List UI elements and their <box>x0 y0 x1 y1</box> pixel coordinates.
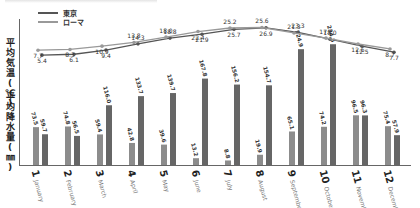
bar-value-label: 156.2 <box>230 65 240 84</box>
bar <box>74 136 80 165</box>
bar-value-label: 74.8 <box>62 110 71 125</box>
bar <box>33 127 39 165</box>
bar-value-label: 154.7 <box>262 66 272 85</box>
month-name: June <box>193 179 203 193</box>
temperature-value-label: 25.6 <box>255 17 269 24</box>
month-number: 6 <box>190 169 202 179</box>
data-point <box>292 31 296 35</box>
bar <box>106 105 112 165</box>
bar <box>193 158 199 165</box>
bar <box>394 135 400 165</box>
month-name: December <box>387 186 402 208</box>
month-name: March <box>97 179 108 198</box>
data-point <box>260 26 264 30</box>
bar-value-label: 39.6 <box>158 129 167 144</box>
bar <box>257 155 263 165</box>
bar <box>385 126 391 165</box>
temperature-value-label: 17.2 <box>319 28 333 35</box>
bar-value-label: 73.5 <box>30 111 39 126</box>
bar <box>65 126 71 165</box>
bar <box>266 85 272 165</box>
bar <box>161 145 167 165</box>
bar <box>138 96 144 165</box>
bar-value-label: 8.8 <box>223 148 231 159</box>
bar <box>170 93 176 165</box>
month-name: July <box>225 179 235 191</box>
temperature-value-label: 18.0 <box>159 27 173 34</box>
temperature-value-label: 21.3 <box>287 23 301 30</box>
month-number: 8 <box>254 169 266 179</box>
bar-value-label: 96.3 <box>359 99 368 114</box>
bar <box>330 44 336 165</box>
month-name: November <box>355 186 370 208</box>
bar <box>225 160 231 165</box>
temperature-value-label: 12.6 <box>351 46 365 53</box>
bar <box>129 143 135 165</box>
data-point <box>228 26 232 30</box>
month-name: August <box>257 179 269 201</box>
bar-value-label: 65.1 <box>286 115 295 130</box>
data-point <box>164 35 168 39</box>
month-number: 2 <box>62 169 74 179</box>
month-name: October <box>323 186 336 208</box>
month-number: 10 <box>318 169 332 185</box>
month-number: 7 <box>222 169 234 179</box>
temperature-value-label: 10.9 <box>95 48 109 55</box>
bar <box>298 49 304 165</box>
bar-value-label: 42.8 <box>126 127 135 142</box>
bar-value-label: 139.7 <box>166 73 176 92</box>
temperature-line <box>38 27 390 50</box>
month-name: May <box>161 179 171 193</box>
month-name: January <box>33 179 46 203</box>
bar-value-label: 19.9 <box>254 139 263 154</box>
temperature-value-label: 7.7 <box>33 52 43 59</box>
bar-value-label: 57.9 <box>391 119 400 134</box>
month-number: 9 <box>286 169 298 179</box>
bar-value-label: 96.5 <box>350 99 359 114</box>
bar <box>234 85 240 165</box>
temperature-value-label: 8.7 <box>385 51 395 58</box>
month-name: April <box>129 179 139 194</box>
bar <box>42 134 48 165</box>
bar-value-label: 167.8 <box>198 59 208 78</box>
temperature-value-label: 8.3 <box>65 51 75 58</box>
bar-value-label: 59.4 <box>94 118 103 133</box>
bar <box>289 131 295 165</box>
bar <box>353 115 359 165</box>
bar <box>321 127 327 165</box>
bar-value-label: 75.4 <box>382 110 391 125</box>
temperature-value-label: 22.4 <box>191 34 205 41</box>
month-number: 4 <box>126 169 138 179</box>
month-number: 11 <box>350 169 364 185</box>
bar <box>97 134 103 165</box>
temperature-value-label: 25.2 <box>223 18 237 25</box>
month-name: September <box>289 179 304 208</box>
data-point <box>132 41 136 45</box>
bar <box>202 79 208 165</box>
month-number: 3 <box>94 169 106 179</box>
temperature-value-label: 25.7 <box>227 31 241 38</box>
bar-value-label: 74.2 <box>318 111 327 126</box>
temperature-value-label: 26.9 <box>259 30 273 37</box>
bar-value-label: 59.7 <box>39 118 48 133</box>
data-point <box>324 36 328 40</box>
bar-value-label: 133.7 <box>134 76 144 95</box>
bar-value-label: 116.0 <box>102 86 112 105</box>
month-name: February <box>65 179 79 206</box>
bar-value-label: 56.5 <box>71 120 80 135</box>
temperature-value-label: 13.8 <box>127 32 141 39</box>
bar <box>362 115 368 165</box>
bar-value-label: 13.2 <box>190 142 199 157</box>
month-number: 5 <box>158 169 170 179</box>
month-number: 1 <box>30 169 42 179</box>
month-number: 12 <box>382 169 396 185</box>
